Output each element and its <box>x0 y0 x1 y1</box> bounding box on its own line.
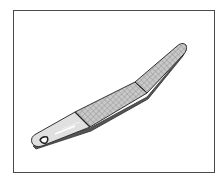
hanging-hole <box>40 137 48 143</box>
file-tip-section <box>135 43 187 93</box>
nail-file-icon <box>0 0 222 180</box>
